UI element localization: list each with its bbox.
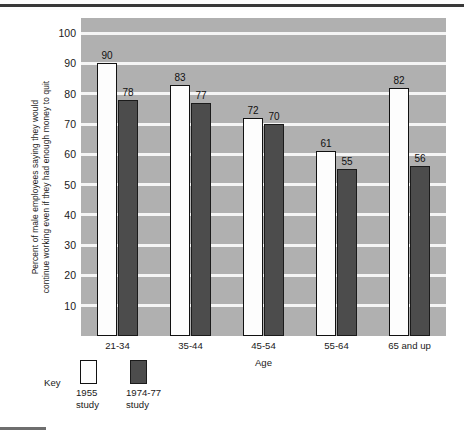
y-axis-tick-40: 40 — [64, 210, 76, 220]
bar-1955-study-65-and-up[interactable] — [389, 88, 409, 336]
bar-group-65-and-up: 8256 — [389, 18, 430, 336]
bar-1974-77-study-65-and-up[interactable] — [410, 166, 430, 336]
y-axis-tick-10: 10 — [64, 301, 76, 311]
bar-value-label: 82 — [393, 76, 404, 86]
chart-legend: Key 1955study1974-77study — [44, 360, 214, 416]
bar-value-label: 83 — [174, 73, 185, 83]
bar-value-label: 78 — [122, 88, 133, 98]
bar-1955-study-45-54[interactable] — [243, 118, 263, 336]
plot-area: 90788377727061558256 — [81, 18, 446, 336]
bottom-divider-rule — [0, 427, 46, 430]
y-axis-tick-50: 50 — [64, 180, 76, 190]
legend-swatch-0 — [80, 360, 97, 384]
bar-series-container: 90788377727061558256 — [81, 18, 446, 336]
bar-value-label: 56 — [414, 154, 425, 164]
x-axis-tick-65-and-up: 65 and up — [388, 340, 431, 352]
bar-chart-figure: Percent of male employees saying they wo… — [0, 0, 464, 435]
bar-1955-study-35-44[interactable] — [170, 85, 190, 336]
legend-key-label: Key — [44, 377, 61, 388]
bar-group-45-54: 7270 — [243, 18, 284, 336]
bar-group-21-34: 9078 — [97, 18, 138, 336]
y-axis-tick-80: 80 — [64, 89, 76, 99]
bar-value-label: 77 — [195, 91, 206, 101]
y-axis-tick-60: 60 — [64, 149, 76, 159]
bar-value-label: 90 — [101, 51, 112, 61]
x-axis-tick-labels: 21-3435-4445-5455-6465 and up — [81, 340, 446, 354]
y-axis-tick-100: 100 — [58, 28, 76, 38]
x-axis-tick-21-34: 21-34 — [105, 340, 130, 352]
legend-label-line-1: 1974-77 — [126, 387, 184, 399]
legend-swatch-1 — [130, 360, 147, 384]
bar-group-55-64: 6155 — [316, 18, 357, 336]
legend-label-1: 1974-77study — [126, 387, 184, 410]
bar-1955-study-21-34[interactable] — [97, 63, 117, 336]
y-axis-tick-70: 70 — [64, 119, 76, 129]
legend-label-line-2: study — [126, 399, 184, 411]
y-axis-tick-90: 90 — [64, 58, 76, 68]
bar-group-35-44: 8377 — [170, 18, 211, 336]
bar-1974-77-study-35-44[interactable] — [191, 103, 211, 336]
y-axis-tick-labels: 102030405060708090100 — [48, 18, 76, 336]
bar-1974-77-study-55-64[interactable] — [337, 169, 357, 336]
bar-value-label: 61 — [320, 139, 331, 149]
bar-1974-77-study-21-34[interactable] — [118, 100, 138, 336]
x-axis-tick-35-44: 35-44 — [178, 340, 203, 352]
y-axis-tick-30: 30 — [64, 240, 76, 250]
x-axis-tick-55-64: 55-64 — [324, 340, 349, 352]
bar-1974-77-study-45-54[interactable] — [264, 124, 284, 336]
x-axis-tick-45-54: 45-54 — [251, 340, 276, 352]
y-axis-title-line-1: Percent of male employees saying they wo… — [30, 37, 41, 337]
bar-value-label: 55 — [341, 157, 352, 167]
bar-1955-study-55-64[interactable] — [316, 151, 336, 336]
bar-value-label: 72 — [247, 106, 258, 116]
bar-value-label: 70 — [268, 112, 279, 122]
y-axis-tick-20: 20 — [64, 270, 76, 280]
